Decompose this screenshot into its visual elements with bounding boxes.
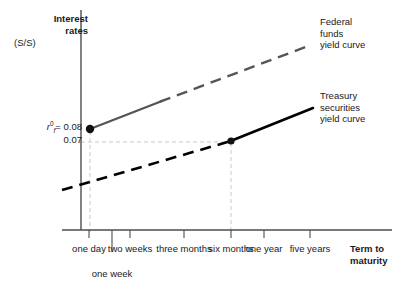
- x-tick-label-two-weeks: two weeks: [101, 243, 159, 255]
- data-point-six-months-007: [227, 137, 234, 144]
- federal-funds-curve-label: Federal funds yield curve: [320, 16, 404, 51]
- y-axis-units-label: (S/S): [14, 37, 58, 49]
- y-tick-label-007: 0.07: [26, 134, 82, 146]
- federal-funds-curve-dashed: [160, 45, 311, 102]
- rf-superscript: 0: [50, 120, 54, 127]
- yield-curve-chart: Interest rates (S/S) r0f= 0.08 0.07 Fede…: [0, 0, 405, 305]
- y-axis-title: Interest rates: [30, 13, 88, 36]
- treasury-curve-dashed: [62, 141, 231, 190]
- rf-value: = 0.08: [55, 121, 82, 132]
- x-axis-title: Term to maturity: [350, 243, 405, 266]
- data-point-one-day-008: [86, 125, 94, 133]
- x-tick-label-one-week: one week: [83, 268, 141, 280]
- treasury-curve-solid: [230, 108, 313, 141]
- federal-funds-curve-solid: [90, 101, 162, 129]
- x-tick-label-five-years: five years: [281, 243, 339, 255]
- treasury-curve-label: Treasury securities yield curve: [320, 90, 404, 125]
